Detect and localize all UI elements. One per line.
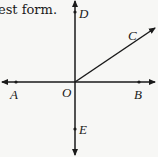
label-c: C: [128, 28, 137, 43]
label-e: E: [78, 122, 87, 137]
geometry-diagram: D C A O B E: [0, 0, 158, 157]
label-o: O: [62, 85, 72, 100]
label-a: A: [9, 87, 18, 102]
point-e: [73, 127, 76, 130]
ray-oc: [75, 28, 155, 82]
point-a: [14, 80, 17, 83]
label-d: D: [78, 6, 89, 21]
point-d: [73, 10, 76, 13]
label-b: B: [134, 87, 142, 102]
point-b: [137, 80, 140, 83]
